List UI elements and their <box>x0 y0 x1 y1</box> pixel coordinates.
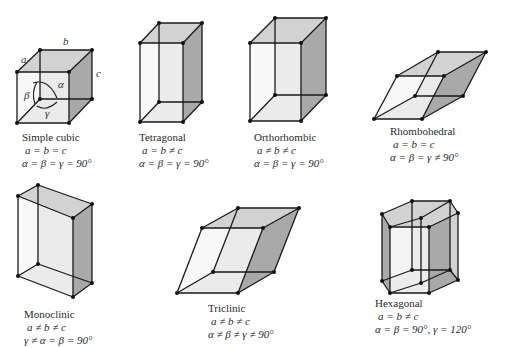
lattice-point <box>157 100 161 104</box>
lattice-point <box>324 16 328 20</box>
lattice-point <box>273 16 277 20</box>
lattice-point <box>380 212 384 216</box>
lattice-point <box>90 281 94 285</box>
caption-simple-cubic: Simple cubic a = b = c α = β = γ = 90° <box>22 131 92 170</box>
lattice-point <box>461 94 465 98</box>
lattice-point <box>420 117 424 121</box>
lattice-point <box>16 194 20 198</box>
front-face <box>140 43 183 122</box>
lattice-name: Orthorhombic <box>254 131 324 144</box>
lattice-point <box>410 268 414 272</box>
crystal-systems-figure: a b c α β γ <box>0 0 505 348</box>
simple-cubic-cell <box>15 48 94 125</box>
lattice-name: Triclinic <box>208 302 274 315</box>
lattice-point <box>372 117 376 121</box>
lattice-point <box>90 202 94 206</box>
angle-label-alpha: α <box>58 78 64 90</box>
lattice-point <box>388 225 392 229</box>
lattice-angles: α = β = γ = 90° <box>254 157 324 170</box>
lattice-point <box>181 41 185 45</box>
lattice-point <box>90 48 94 52</box>
lattice-lengths: a = b = c <box>22 144 92 157</box>
lattice-point <box>181 120 185 124</box>
lattice-point <box>272 270 276 274</box>
caption-monoclinic: Monoclinic a ≠ b ≠ c γ ≠ α = β = 90° <box>24 308 92 347</box>
lattice-name: Monoclinic <box>24 308 92 321</box>
lattice-point <box>261 226 265 230</box>
lattice-point <box>448 268 452 272</box>
lattice-point <box>419 216 423 220</box>
monoclinic-cell <box>16 183 94 299</box>
lattice-point <box>236 291 240 295</box>
lattice-point <box>442 74 446 78</box>
angle-label-gamma: γ <box>45 107 50 119</box>
lattice-point <box>138 120 142 124</box>
lattice-point <box>16 274 20 278</box>
lattice-lengths: a ≠ b ≠ c <box>208 315 274 328</box>
orthorhombic-cell <box>248 16 328 123</box>
lattice-point <box>67 70 71 74</box>
lattice-point <box>427 225 431 229</box>
right-face <box>73 204 92 297</box>
lattice-lengths: a = b ≠ c <box>375 310 471 323</box>
lattice-point <box>200 226 204 230</box>
caption-tetragonal: Tetragonal a = b ≠ c α = β = γ = 90° <box>139 131 209 170</box>
lattice-point <box>175 291 179 295</box>
lattice-point <box>395 74 399 78</box>
tetragonal-cell <box>138 21 204 124</box>
lattice-name: Simple cubic <box>22 131 92 144</box>
lattice-angles: γ ≠ α = β = 90° <box>24 334 92 347</box>
caption-orthorhombic: Orthorhombic a ≠ b ≠ c α = β = γ = 90° <box>254 131 324 170</box>
lattice-point <box>236 206 240 210</box>
lattice-angles: α = β = γ = 90° <box>139 157 209 170</box>
front-face <box>390 227 429 293</box>
lattice-point <box>484 50 488 54</box>
lattice-point <box>15 121 19 125</box>
lattice-point <box>71 216 75 220</box>
caption-triclinic: Triclinic a ≠ b ≠ c α ≠ β ≠ γ ≠ 90° <box>208 302 274 341</box>
lattice-lengths: a ≠ b ≠ c <box>254 144 324 157</box>
edge-label-a: a <box>21 53 27 65</box>
lattice-lengths: a ≠ b ≠ c <box>24 321 92 334</box>
edge-label-b: b <box>63 35 69 47</box>
rhombohedral-cell <box>372 50 488 121</box>
lattice-point <box>436 50 440 54</box>
lattice-point <box>456 278 460 282</box>
lattice-point <box>273 93 277 97</box>
lattice-lengths: a = b = c <box>390 138 458 151</box>
edge-label-c: c <box>96 67 101 79</box>
lattice-point <box>200 100 204 104</box>
lattice-point <box>38 97 42 101</box>
lattice-point <box>448 199 452 203</box>
lattice-point <box>380 279 384 283</box>
lattice-point <box>299 119 303 123</box>
lattice-name: Tetragonal <box>139 131 209 144</box>
lattice-point <box>36 262 40 266</box>
lattice-point <box>456 211 460 215</box>
lattice-angles: α ≠ β ≠ γ ≠ 90° <box>208 328 274 341</box>
lattice-point <box>157 21 161 25</box>
lattice-angles: α = β = 90°, γ = 120° <box>375 323 471 336</box>
caption-hexagonal: Hexagonal a = b ≠ c α = β = 90°, γ = 120… <box>375 297 471 336</box>
lattice-point <box>38 48 42 52</box>
lattice-point <box>410 199 414 203</box>
lattice-point <box>248 41 252 45</box>
hexagonal-cell <box>380 199 460 295</box>
lattice-name: Rhombohedral <box>390 125 458 138</box>
lattice-name: Hexagonal <box>375 297 471 310</box>
lattice-point <box>200 21 204 25</box>
lattice-point <box>248 119 252 123</box>
lattice-point <box>413 94 417 98</box>
lattice-point <box>15 70 19 74</box>
caption-rhombohedral: Rhombohedral a = b = c α = β = γ ≠ 90° <box>390 125 458 164</box>
lattice-point <box>138 41 142 45</box>
lattice-point <box>297 206 301 210</box>
lattice-point <box>67 121 71 125</box>
triclinic-cell <box>175 206 301 295</box>
lattice-point <box>427 291 431 295</box>
lattice-point <box>299 41 303 45</box>
lattice-lengths: a = b ≠ c <box>139 144 209 157</box>
lattice-point <box>90 97 94 101</box>
lattice-point <box>388 291 392 295</box>
lattice-point <box>211 270 215 274</box>
